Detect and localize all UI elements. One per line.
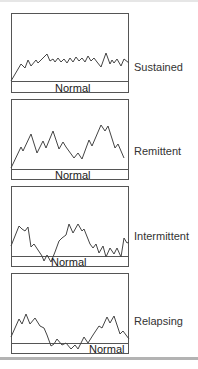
temperature-curve xyxy=(11,125,124,168)
panel-sustained: Normal xyxy=(11,13,129,93)
pattern-label-sustained: Sustained xyxy=(134,61,183,73)
temperature-chart-sustained xyxy=(11,13,129,93)
normal-label: Normal xyxy=(51,257,86,268)
top-divider xyxy=(0,0,198,2)
normal-label: Normal xyxy=(89,344,124,355)
panel-intermittent: Normal xyxy=(11,186,129,267)
chart-frame xyxy=(12,274,129,354)
normal-label: Normal xyxy=(55,170,90,181)
pattern-label-remittent: Remittent xyxy=(134,145,181,157)
temperature-chart-intermittent xyxy=(11,186,129,267)
pattern-label-relapsing: Relapsing xyxy=(134,315,183,327)
temperature-chart-remittent xyxy=(11,99,129,180)
normal-label: Normal xyxy=(55,83,90,94)
panel-relapsing: Normal xyxy=(11,273,129,354)
chart-frame xyxy=(12,100,129,180)
bottom-divider xyxy=(0,357,198,360)
chart-frame xyxy=(12,14,129,93)
pattern-label-intermittent: Intermittent xyxy=(134,230,189,242)
temperature-curve xyxy=(11,53,129,81)
panel-remittent: Normal xyxy=(11,99,129,180)
temperature-chart-relapsing xyxy=(11,273,129,354)
